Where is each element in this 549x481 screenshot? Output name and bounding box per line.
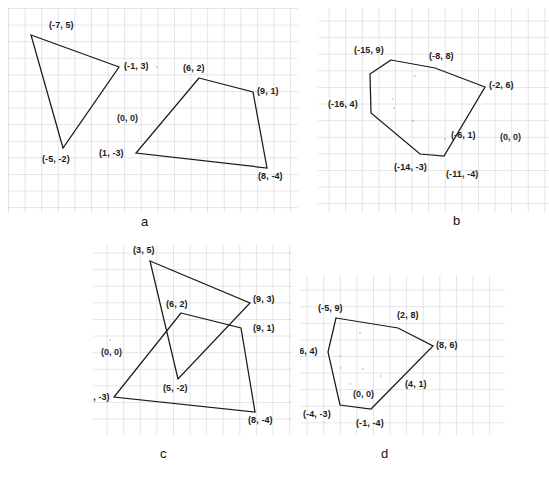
vertex-label-b2: (-8, 8) — [429, 52, 454, 61]
hexagon-d — [328, 318, 433, 409]
origin-label-a: (0, 0) — [117, 114, 138, 123]
vertex-label-d5: (4, 1) — [405, 380, 427, 389]
vertex-label-d7: (-1, -4) — [356, 419, 384, 428]
artifact-speck — [444, 138, 446, 140]
vertex-label-d1: (-5, 9) — [318, 304, 343, 313]
vertex-label-c4: (9, 1) — [253, 324, 275, 333]
artifact-speck — [380, 375, 382, 377]
vertex-label-a6: (1, -3) — [99, 149, 124, 158]
panel-a: (-7, 5) (-1, 3) (-5, -2) (0, 0) (6, 2) (… — [8, 8, 298, 213]
artifact-speck — [392, 98, 394, 100]
vertex-label-c3: (6, 2) — [166, 300, 188, 309]
artifact-speck — [359, 332, 361, 334]
shapes-a — [8, 8, 298, 213]
panel-d: (-5, 9) (2, 8) (8, 6) (-6, 4) (4, 1) (0,… — [300, 275, 505, 435]
vertex-label-a1: (-7, 5) — [49, 21, 74, 30]
panel-caption-a: a — [141, 215, 148, 228]
vertex-label-a7: (8, -4) — [258, 172, 283, 181]
figure-canvas: (-7, 5) (-1, 3) (-5, -2) (0, 0) (6, 2) (… — [0, 0, 549, 481]
artifact-speck — [340, 367, 342, 369]
quadrilateral-right — [136, 78, 267, 168]
vertex-label-d2: (2, 8) — [397, 311, 419, 320]
origin-label-d: (0, 0) — [353, 390, 374, 399]
vertex-label-a5: (9, 1) — [257, 87, 279, 96]
artifact-speck — [393, 107, 395, 109]
vertex-label-c2: (9, 3) — [253, 295, 275, 304]
vertex-label-b7: (-11, -4) — [446, 170, 478, 179]
artifact-speck — [412, 120, 414, 122]
vertex-label-c7: (8, -4) — [248, 416, 273, 425]
vertex-label-a2: (-1, 3) — [124, 62, 149, 71]
artifact-speck — [414, 75, 416, 77]
artifact-speck — [339, 355, 341, 357]
panel-caption-c: c — [160, 447, 167, 460]
artifact-speck — [362, 368, 364, 370]
triangle-left — [31, 35, 119, 148]
vertex-label-b1: (-15, 9) — [354, 46, 384, 55]
panel-caption-d: d — [381, 447, 388, 460]
artifact-speck — [156, 66, 158, 68]
origin-label-b: (0, 0) — [500, 133, 521, 142]
panel-b: (-15, 9) (-8, 8) (-2, 6) (-16, 4) (-6, 1… — [318, 8, 549, 213]
triangle-overlap — [150, 261, 250, 379]
shapes-b — [318, 8, 549, 213]
vertex-label-d6: (-4, -3) — [303, 410, 331, 419]
quadrilateral-overlap — [114, 313, 255, 412]
hexagon-b — [370, 60, 485, 156]
vertex-label-a3: (-5, -2) — [42, 155, 70, 164]
vertex-label-d3: (8, 6) — [436, 341, 458, 350]
vertex-label-c5: (5, -2) — [163, 384, 188, 393]
artifact-speck — [349, 383, 351, 385]
vertex-label-c6: (1, -3) — [93, 393, 110, 402]
vertex-label-b6: (-14, -3) — [394, 163, 427, 172]
vertex-label-b4: (-16, 4) — [328, 100, 358, 109]
vertex-label-a4: (6, 2) — [183, 64, 205, 73]
vertex-label-b5: (-6, 1) — [451, 131, 476, 140]
vertex-label-b3: (-2, 6) — [489, 81, 514, 90]
vertex-label-c1: (3, 5) — [133, 246, 155, 255]
shapes-c — [93, 245, 293, 435]
artifact-speck — [109, 339, 111, 341]
origin-label-c: (0, 0) — [101, 348, 122, 357]
panel-c: (3, 5) (9, 3) (6, 2) (9, 1) (0, 0) (5, -… — [93, 245, 293, 435]
vertex-label-d4: (-6, 4) — [300, 347, 318, 356]
panel-caption-b: b — [453, 214, 460, 227]
